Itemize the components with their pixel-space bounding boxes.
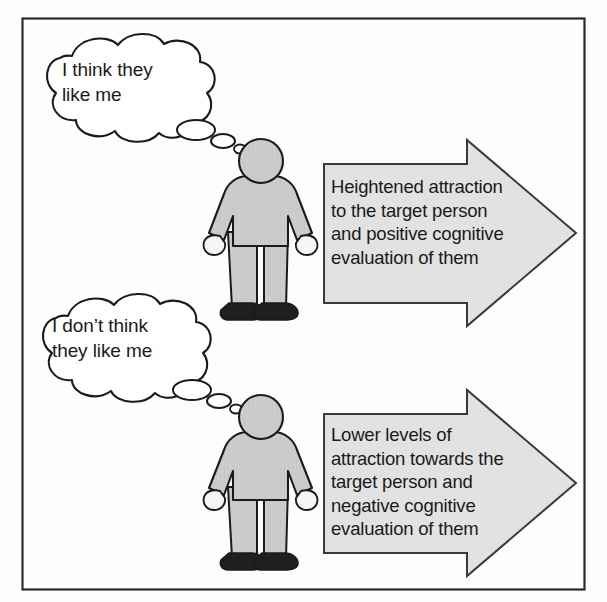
thought-bubble-positive-label: I think they like me bbox=[62, 57, 153, 107]
thought-bubble-positive-tail-2 bbox=[211, 134, 235, 148]
diagram-canvas: I think they like me I don’t think they … bbox=[0, 0, 607, 602]
outcome-arrow-negative-label: Lower levels of attraction towards the t… bbox=[331, 423, 503, 541]
person-negative-head bbox=[239, 395, 283, 439]
outcome-arrow-positive-label: Heightened attraction to the target pers… bbox=[331, 175, 504, 269]
person-positive-hand-left bbox=[204, 235, 226, 255]
thought-bubble-negative-label: I don’t think they like me bbox=[52, 313, 152, 363]
person-positive-head bbox=[239, 139, 283, 183]
person-negative-hand-right bbox=[296, 490, 318, 510]
thought-bubble-negative-tail-1 bbox=[173, 380, 211, 400]
person-negative-shoe-right bbox=[253, 553, 298, 570]
person-positive-shoe-right bbox=[253, 303, 298, 320]
thought-bubble-negative-tail-2 bbox=[207, 394, 231, 408]
person-negative-hand-left bbox=[204, 490, 226, 510]
person-positive-hand-right bbox=[296, 235, 318, 255]
thought-bubble-positive-tail-1 bbox=[177, 120, 215, 140]
